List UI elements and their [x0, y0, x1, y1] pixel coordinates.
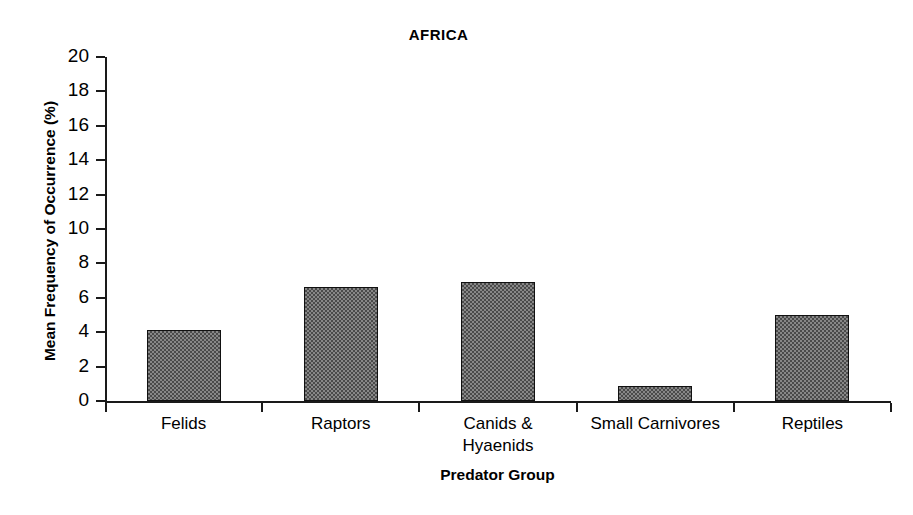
x-axis-category-label: Reptiles — [734, 413, 891, 435]
x-axis-tick — [105, 403, 107, 412]
y-axis-tick-label: 20 — [39, 46, 89, 66]
y-axis-tick-label: 4 — [39, 321, 89, 341]
x-axis-title: Predator Group — [105, 466, 890, 484]
bar — [304, 287, 378, 401]
bar — [775, 315, 849, 401]
x-axis-category-label: Felids — [105, 413, 262, 435]
y-axis-line — [105, 57, 107, 403]
bar — [461, 282, 535, 401]
y-axis-tick-label: 12 — [39, 184, 89, 204]
y-axis-tick — [96, 194, 105, 196]
y-axis-tick-label: 18 — [39, 80, 89, 100]
chart-figure: AFRICA Mean Frequency of Occurrence (%) … — [0, 0, 913, 515]
bar — [618, 386, 692, 401]
y-axis-tick — [96, 159, 105, 161]
x-axis-tick — [733, 403, 735, 412]
y-axis-tick-label: 0 — [39, 390, 89, 410]
x-axis-tick — [418, 403, 420, 412]
y-axis-tick-label: 14 — [39, 149, 89, 169]
y-axis-tick — [96, 331, 105, 333]
chart-title: AFRICA — [0, 26, 895, 44]
y-axis-tick — [96, 262, 105, 264]
y-axis-tick — [96, 90, 105, 92]
y-axis-tick — [96, 400, 105, 402]
y-axis-tick — [96, 125, 105, 127]
y-axis-tick — [96, 228, 105, 230]
y-axis-tick-label: 8 — [39, 252, 89, 272]
y-axis-tick-label: 6 — [39, 287, 89, 307]
y-axis-tick-label: 16 — [39, 115, 89, 135]
x-axis-category-label: Canids & Hyaenids — [419, 413, 576, 457]
y-axis-tick — [96, 297, 105, 299]
y-axis-tick-label: 2 — [39, 356, 89, 376]
bar — [147, 330, 221, 401]
x-axis-category-label: Raptors — [262, 413, 419, 435]
y-axis-tick — [96, 56, 105, 58]
y-axis-tick — [96, 366, 105, 368]
x-axis-tick — [576, 403, 578, 412]
x-axis-tick — [261, 403, 263, 412]
plot-area: 02468101214161820 FelidsRaptorsCanids & … — [105, 57, 891, 402]
x-axis-category-label: Small Carnivores — [577, 413, 734, 435]
x-axis-tick — [890, 403, 892, 412]
y-axis-tick-label: 10 — [39, 218, 89, 238]
x-axis-line — [105, 401, 891, 403]
